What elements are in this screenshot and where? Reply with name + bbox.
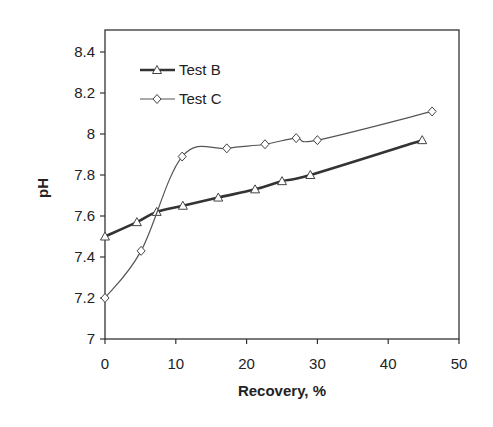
y-tick-label: 7.2	[74, 289, 95, 306]
triangle-marker-icon	[418, 136, 427, 144]
diamond-marker-icon	[137, 246, 145, 255]
y-tick-label: 8	[87, 125, 95, 142]
x-axis-title: Recovery, %	[238, 382, 326, 399]
series-layer	[101, 107, 437, 303]
legend-item: Test C	[140, 90, 222, 107]
diamond-marker-icon	[261, 140, 269, 149]
legend-item: Test B	[140, 61, 221, 78]
legend: Test BTest C	[140, 61, 222, 107]
x-tick-label: 30	[309, 355, 326, 372]
y-tick-label: 7.4	[74, 248, 95, 265]
legend-label: Test C	[179, 90, 222, 107]
y-tick-label: 7	[87, 330, 95, 347]
y-tick-label: 8.2	[74, 84, 95, 101]
series-line	[105, 140, 422, 236]
series-test-c	[101, 107, 436, 303]
chart-container: 77.27.47.67.888.28.4 01020304050 Test BT…	[0, 0, 493, 427]
y-tick-label: 7.6	[74, 207, 95, 224]
y-tick-label: 7.8	[74, 166, 95, 183]
y-axis-title: pH	[34, 178, 51, 198]
x-tick-label: 0	[101, 355, 109, 372]
legend-label: Test B	[179, 61, 221, 78]
diamond-marker-icon	[292, 134, 300, 143]
diamond-marker-icon	[428, 107, 436, 116]
series-test-b	[101, 136, 427, 240]
x-axis: 01020304050	[101, 339, 468, 372]
diamond-marker-icon	[223, 144, 231, 153]
x-tick-label: 10	[167, 355, 184, 372]
x-tick-label: 50	[451, 355, 468, 372]
line-chart: 77.27.47.67.888.28.4 01020304050 Test BT…	[0, 0, 493, 427]
x-tick-label: 40	[380, 355, 397, 372]
diamond-marker-icon	[313, 136, 321, 145]
y-tick-label: 8.4	[74, 43, 95, 60]
legend-diamond-icon	[153, 95, 161, 104]
series-line	[105, 111, 432, 298]
x-tick-label: 20	[238, 355, 255, 372]
y-axis: 77.27.47.67.888.28.4	[74, 43, 105, 347]
